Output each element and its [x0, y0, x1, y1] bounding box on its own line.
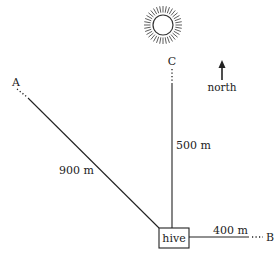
- path-to-a: [28, 98, 159, 228]
- path-to-a-dotted: [17, 89, 27, 97]
- distance-a-label: 900 m: [59, 164, 94, 177]
- distance-b-label: 400 m: [213, 224, 248, 237]
- hive-box: hive: [159, 228, 189, 248]
- bee-dance-diagram: north C 500 m A 900 m hive 400 m B: [0, 0, 280, 262]
- north-arrow-icon: [219, 60, 226, 80]
- distance-c-label: 500 m: [176, 139, 211, 152]
- sun-icon: [144, 6, 182, 44]
- north-label: north: [207, 81, 236, 93]
- hive-label: hive: [162, 232, 185, 245]
- location-b-label: B: [266, 231, 274, 244]
- location-a-label: A: [11, 76, 21, 89]
- location-c-label: C: [168, 55, 176, 68]
